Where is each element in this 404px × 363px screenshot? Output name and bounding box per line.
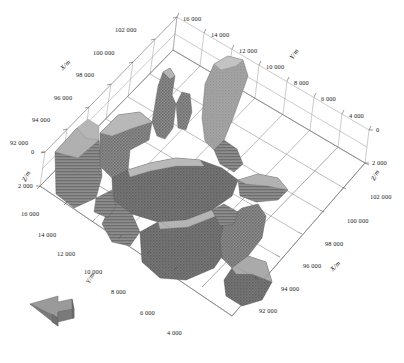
- y-lower-tick-4: 8 000: [111, 289, 126, 295]
- x-upper-tick-1: 94 000: [32, 117, 50, 123]
- x-lower-tick-5: 92 000: [259, 308, 277, 314]
- y-lower-tick-0: 16 000: [21, 211, 39, 217]
- y-lower-tick-2: 12 000: [57, 251, 75, 257]
- y-upper-tick-4: 8 000: [294, 80, 309, 86]
- x-upper-tick-5: 102 000: [115, 27, 136, 33]
- x-upper-tick-3: 98 000: [76, 72, 94, 78]
- y-lower-tick-6: 4 000: [167, 330, 182, 336]
- north-arrow-icon: [30, 296, 74, 326]
- x-lower-tick-3: 96 000: [303, 263, 321, 269]
- y-upper-tick-1: 14 000: [211, 32, 229, 38]
- y-upper-tick-5: 6 000: [321, 96, 336, 102]
- y-upper-tick-6: 4 000: [349, 113, 364, 119]
- y-upper-tick-3: 10 000: [266, 64, 284, 70]
- y-upper-tick-0: 16 000: [183, 16, 201, 22]
- x-lower-tick-4: 94 000: [281, 286, 299, 292]
- plot-canvas: [0, 0, 404, 363]
- figure-3d-voxel-plot: 92 000 94 000 96 000 98 000 100 000 102 …: [0, 0, 404, 363]
- x-lower-tick-0: 102 000: [370, 194, 391, 200]
- x-lower-tick-1: 100 000: [347, 218, 368, 224]
- x-lower-tick-2: 98 000: [325, 241, 343, 247]
- y-lower-tick-1: 14 000: [38, 232, 56, 238]
- z-left-tick-0: 0: [31, 149, 34, 155]
- y-lower-tick-5: 6 000: [140, 310, 155, 316]
- x-upper-tick-0: 92 000: [10, 140, 28, 146]
- z-right-tick-0: 0: [376, 127, 379, 133]
- grid-wall-right: [173, 17, 369, 163]
- z-left-tick-1: 2 000: [18, 183, 33, 189]
- x-upper-tick-2: 96 000: [54, 95, 72, 101]
- y-upper-tick-2: 12 000: [239, 48, 257, 54]
- z-right-tick-1: 2 000: [372, 160, 387, 166]
- x-upper-tick-4: 100 000: [93, 50, 114, 56]
